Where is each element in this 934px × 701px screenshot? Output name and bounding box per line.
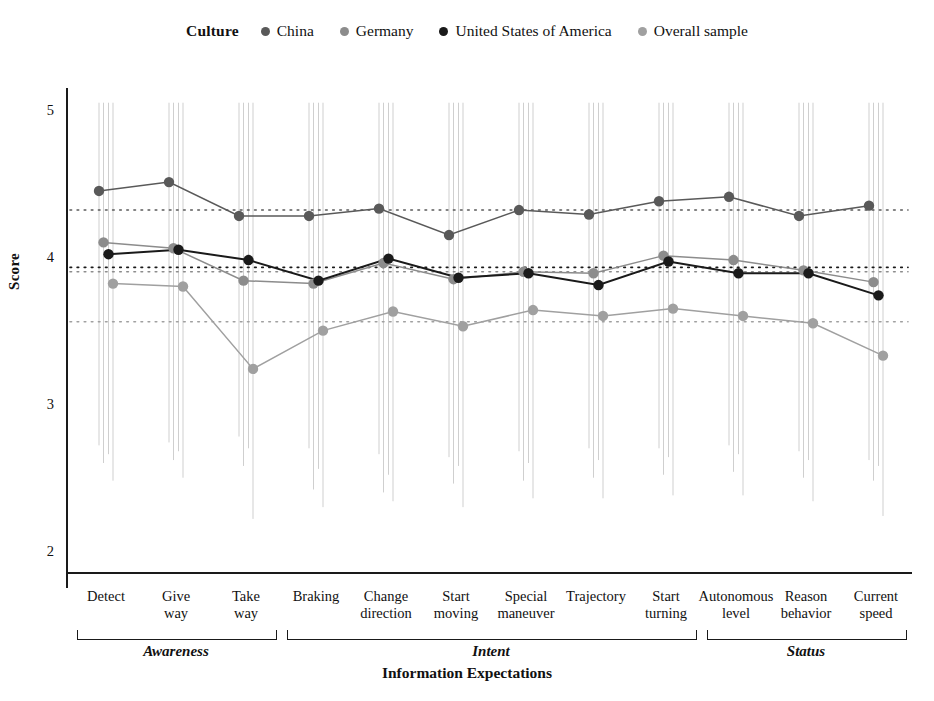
legend-marker-icon (261, 27, 270, 36)
group-label: Awareness (143, 643, 209, 660)
data-point[interactable] (794, 211, 804, 221)
legend-item-germany[interactable]: Germany (340, 22, 414, 40)
group-bracket (77, 630, 278, 640)
data-point[interactable] (733, 268, 743, 278)
data-point[interactable] (108, 278, 118, 288)
legend-marker-icon (638, 27, 647, 36)
data-point[interactable] (873, 290, 883, 300)
data-point[interactable] (803, 268, 813, 278)
series-line (113, 284, 883, 369)
plot-area (66, 60, 912, 560)
group-bracket (287, 630, 698, 640)
data-point[interactable] (453, 273, 463, 283)
data-point[interactable] (868, 277, 878, 287)
legend: Culture ChinaGermanyUnited States of Ame… (0, 22, 934, 40)
data-point[interactable] (878, 350, 888, 360)
data-point[interactable] (593, 280, 603, 290)
data-point[interactable] (103, 249, 113, 259)
x-axis-tick-label: Currentspeed (830, 588, 922, 622)
legend-marker-icon (340, 27, 349, 36)
chart-figure: Culture ChinaGermanyUnited States of Ame… (0, 0, 934, 701)
series-line (109, 250, 879, 296)
data-point[interactable] (98, 237, 108, 247)
data-point[interactable] (663, 256, 673, 266)
data-point[interactable] (668, 303, 678, 313)
data-point[interactable] (94, 186, 104, 196)
y-axis-tick-label: 2 (30, 543, 54, 560)
data-point[interactable] (164, 177, 174, 187)
series-line (104, 242, 874, 283)
group-label: Intent (472, 643, 510, 660)
data-point[interactable] (728, 255, 738, 265)
y-axis-tick-label: 4 (30, 249, 54, 266)
y-axis-tick-label: 5 (30, 102, 54, 119)
y-axis-title: Score (6, 253, 23, 290)
data-point[interactable] (238, 275, 248, 285)
data-point[interactable] (248, 364, 258, 374)
data-point[interactable] (808, 318, 818, 328)
data-point[interactable] (243, 255, 253, 265)
legend-items: ChinaGermanyUnited States of AmericaOver… (261, 22, 748, 40)
x-axis-tick-label-line: Current (830, 588, 922, 605)
legend-marker-icon (439, 27, 448, 36)
x-axis-title: Information Expectations (0, 664, 934, 682)
data-point[interactable] (724, 192, 734, 202)
data-point[interactable] (864, 200, 874, 210)
legend-item-label: China (277, 22, 314, 40)
y-axis-ticks: 5432 (28, 0, 54, 701)
legend-item-label: Overall sample (654, 22, 748, 40)
group-bracket (707, 630, 908, 640)
data-point[interactable] (313, 275, 323, 285)
data-point[interactable] (523, 268, 533, 278)
data-point[interactable] (584, 209, 594, 219)
legend-item-china[interactable]: China (261, 22, 314, 40)
data-point[interactable] (738, 311, 748, 321)
data-point[interactable] (458, 321, 468, 331)
data-point[interactable] (318, 325, 328, 335)
data-point[interactable] (388, 306, 398, 316)
legend-title: Culture (186, 22, 239, 40)
data-point[interactable] (374, 203, 384, 213)
data-point[interactable] (598, 311, 608, 321)
x-axis-tick-label-line: maneuver (480, 605, 572, 622)
data-point[interactable] (234, 211, 244, 221)
chart-canvas (66, 60, 912, 588)
data-point[interactable] (173, 245, 183, 255)
legend-item-label: Germany (356, 22, 414, 40)
group-label: Status (787, 643, 825, 660)
data-point[interactable] (178, 281, 188, 291)
legend-item-label: United States of America (455, 22, 611, 40)
data-point[interactable] (654, 196, 664, 206)
data-point[interactable] (528, 305, 538, 315)
legend-item-united-states-of-america[interactable]: United States of America (439, 22, 611, 40)
series-line (99, 182, 869, 235)
data-point[interactable] (383, 253, 393, 263)
legend-item-overall-sample[interactable]: Overall sample (638, 22, 748, 40)
data-point[interactable] (304, 211, 314, 221)
data-point[interactable] (588, 268, 598, 278)
data-point[interactable] (514, 205, 524, 215)
x-axis-labels: DetectGivewayTakewayBrakingChangedirecti… (66, 588, 912, 630)
data-point[interactable] (444, 230, 454, 240)
x-axis-tick-label-line: speed (830, 605, 922, 622)
x-axis-tick-label-line: way (200, 605, 292, 622)
y-axis-tick-label: 3 (30, 396, 54, 413)
